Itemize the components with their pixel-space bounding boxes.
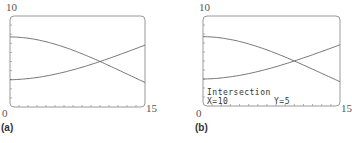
origin-label: 0 bbox=[2, 107, 8, 119]
panel-b: 10 Intersection X=10 Y=5 0 15 (b) bbox=[175, 0, 350, 143]
caption-b: (b) bbox=[195, 122, 208, 133]
x-max-label: 15 bbox=[341, 102, 352, 114]
caption-a: (a) bbox=[1, 122, 13, 133]
x-max-label: 15 bbox=[146, 102, 157, 114]
intersection-title: Intersection bbox=[207, 88, 271, 97]
intersection-y: Y=5 bbox=[274, 97, 290, 106]
origin-label: 0 bbox=[196, 107, 202, 119]
intersection-x: X=10 bbox=[207, 97, 228, 106]
graph-a bbox=[0, 0, 175, 143]
panel-a: 10 0 15 (a) bbox=[0, 0, 175, 143]
